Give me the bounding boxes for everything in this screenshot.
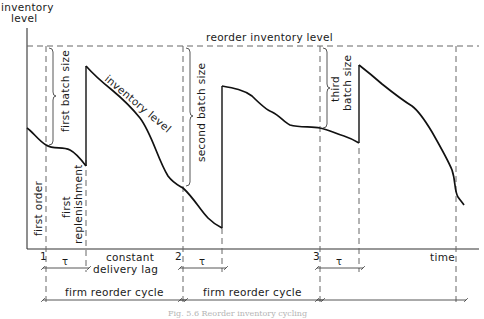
constant-lag-label-line1: constant [106,251,154,263]
reorder-level-label: reorder inventory level [206,31,333,43]
order-tick-3: 3 [313,250,320,262]
inventory-curve-segment-1 [27,128,86,166]
first-replenishment-label-line1: first [60,196,72,218]
inventory-curve-segment-4 [359,65,464,205]
x-axis-label: time [430,251,455,263]
order-tick-2: 2 [175,250,182,262]
second-batch-brace [186,48,193,186]
second-batch-label: second batch size [195,63,207,162]
first-replenishment-label-line2: replenishment [72,164,84,244]
first-batch-label: first batch size [59,50,71,132]
cycle-label-1: firm reorder cycle [65,286,164,298]
order-tick-1: 1 [40,250,47,262]
lag-symbol-1: τ [62,256,68,267]
y-axis-label-line2: level [11,12,37,24]
third-batch-label-line2: batch size [341,55,353,111]
inventory-curve-label: inventory level [103,72,174,134]
lag-symbol-3: τ [336,256,342,267]
first-order-label: first order [32,180,44,236]
first-batch-brace [49,48,56,145]
cycle-label-2: firm reorder cycle [203,286,302,298]
lag-symbol-2: τ [199,256,205,267]
third-batch-label-line1: third [329,76,341,102]
figure-caption: Fig. 5.6 Reorder inventory cycling [168,309,307,318]
inventory-reorder-diagram: inventory level reorder inventory level … [0,0,484,319]
constant-lag-label-line2: delivery lag [93,263,158,275]
